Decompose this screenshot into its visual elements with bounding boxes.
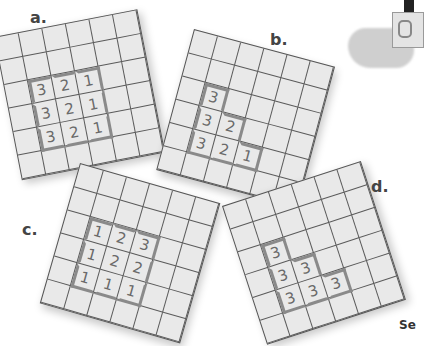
label-d: d. [371,177,389,196]
grid-cell [156,313,186,343]
grid-a: 321321321 [0,9,165,180]
label-c: c. [22,220,38,239]
cube-hole [398,20,412,38]
cube-stem [404,0,414,12]
footer-text: Se [399,318,416,332]
label-a: a. [30,8,47,27]
label-b: b. [270,30,288,49]
grid-c: 123122111 [40,163,221,344]
